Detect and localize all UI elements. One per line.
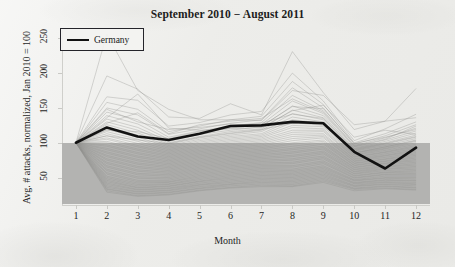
y-tick-label: 100 <box>39 129 49 153</box>
y-tick-label: 200 <box>39 59 49 83</box>
x-tick-label: 9 <box>313 210 333 221</box>
x-tick-mark <box>292 205 293 209</box>
x-tick-mark <box>76 205 77 209</box>
x-tick-mark <box>385 205 386 209</box>
x-axis-line <box>62 205 430 206</box>
x-tick-label: 7 <box>251 210 271 221</box>
x-tick-label: 2 <box>97 210 117 221</box>
plot-area <box>62 30 430 204</box>
y-tick-label: 250 <box>39 24 49 48</box>
germany-series-line <box>62 30 430 204</box>
series-line-germany <box>76 122 416 169</box>
legend-line-swatch <box>67 39 89 41</box>
x-tick-label: 6 <box>221 210 241 221</box>
x-tick-mark <box>354 205 355 209</box>
x-tick-mark <box>416 205 417 209</box>
x-tick-label: 1 <box>66 210 86 221</box>
x-tick-mark <box>138 205 139 209</box>
x-tick-label: 4 <box>159 210 179 221</box>
y-tick-label: 150 <box>39 94 49 118</box>
x-tick-mark <box>169 205 170 209</box>
x-tick-label: 11 <box>375 210 395 221</box>
chart-title: September 2010 − August 2011 <box>0 8 455 20</box>
x-tick-label: 3 <box>128 210 148 221</box>
x-tick-label: 5 <box>190 210 210 221</box>
x-tick-mark <box>231 205 232 209</box>
x-tick-mark <box>107 205 108 209</box>
x-tick-label: 8 <box>282 210 302 221</box>
figure-root: September 2010 − August 2011 Avg. # atta… <box>0 0 455 267</box>
legend-label-germany: Germany <box>94 35 129 45</box>
x-tick-mark <box>323 205 324 209</box>
x-tick-mark <box>200 205 201 209</box>
x-tick-mark <box>261 205 262 209</box>
y-axis-label: Avg. # attacks, normalized, Jan 2010 = 1… <box>21 23 32 213</box>
legend-box: Germany <box>60 28 144 51</box>
x-tick-label: 10 <box>344 210 364 221</box>
y-tick-label: 50 <box>39 164 49 188</box>
x-tick-label: 12 <box>406 210 426 221</box>
x-axis-label: Month <box>0 235 455 246</box>
